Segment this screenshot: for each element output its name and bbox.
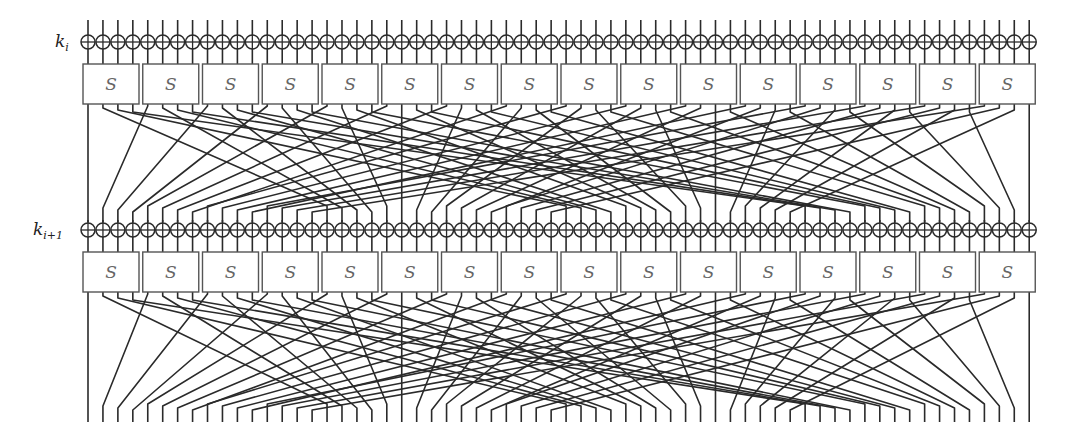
xor-icon	[694, 35, 708, 49]
xor-icon	[1022, 223, 1036, 237]
xor-icon	[484, 223, 498, 237]
sbox: S	[561, 252, 617, 292]
sbox-label: S	[165, 74, 177, 94]
sbox: S	[800, 64, 856, 104]
xor-icon	[559, 35, 573, 49]
xor-icon	[783, 223, 797, 237]
xor-icon	[828, 35, 842, 49]
sbox: S	[621, 252, 677, 292]
xor-icon	[664, 35, 678, 49]
xor-icon	[395, 35, 409, 49]
xor-icon	[96, 223, 110, 237]
xor-icon	[933, 35, 947, 49]
xor-icon	[156, 223, 170, 237]
xor-icon	[365, 223, 379, 237]
sbox: S	[143, 64, 199, 104]
xor-icon	[395, 223, 409, 237]
sbox-label: S	[165, 262, 177, 282]
permutation-wire	[850, 292, 984, 422]
xor-icon	[111, 35, 125, 49]
xor-icon	[514, 223, 528, 237]
sbox-label: S	[284, 262, 296, 282]
sbox: S	[262, 64, 318, 104]
xor-icon	[649, 223, 663, 237]
sbox-label: S	[464, 262, 476, 282]
xor-icon	[141, 35, 155, 49]
xor-icon	[96, 35, 110, 49]
xor-icon	[186, 223, 200, 237]
xor-icon	[275, 223, 289, 237]
sbox: S	[382, 64, 438, 104]
xor-icon	[469, 35, 483, 49]
sbox-label: S	[1001, 262, 1013, 282]
sbox-label: S	[882, 262, 894, 282]
sbox-label: S	[703, 74, 715, 94]
xor-icon	[469, 223, 483, 237]
sbox: S	[979, 252, 1035, 292]
sbox: S	[143, 252, 199, 292]
xor-icon	[230, 223, 244, 237]
xor-icon	[634, 35, 648, 49]
xor-icon	[843, 35, 857, 49]
xor-icon	[619, 35, 633, 49]
xor-icon	[320, 35, 334, 49]
xor-icon	[1007, 35, 1021, 49]
sbox: S	[262, 252, 318, 292]
xor-icon	[977, 223, 991, 237]
xor-icon	[992, 35, 1006, 49]
sbox: S	[83, 64, 139, 104]
sbox: S	[800, 252, 856, 292]
xor-icon	[768, 35, 782, 49]
xor-icon	[992, 223, 1006, 237]
xor-icon	[888, 223, 902, 237]
sbox-label: S	[703, 262, 715, 282]
xor-icon	[813, 35, 827, 49]
sbox-label: S	[225, 74, 237, 94]
xor-icon	[305, 223, 319, 237]
sbox: S	[322, 252, 378, 292]
xor-icon	[245, 35, 259, 49]
sbox: S	[561, 64, 617, 104]
xor-icon	[679, 35, 693, 49]
xor-icon	[529, 35, 543, 49]
xor-icon	[723, 223, 737, 237]
xor-icon	[753, 223, 767, 237]
sbox: S	[860, 252, 916, 292]
sbox-label: S	[583, 262, 595, 282]
xor-icon	[455, 35, 469, 49]
permutation-wire	[969, 292, 1014, 422]
xor-icon	[171, 223, 185, 237]
xor-icon	[215, 223, 229, 237]
xor-icon	[425, 223, 439, 237]
xor-icon	[1007, 223, 1021, 237]
xor-icon	[604, 223, 618, 237]
xor-icon	[126, 35, 140, 49]
xor-icon	[708, 35, 722, 49]
sbox-label: S	[225, 262, 237, 282]
xor-icon	[888, 35, 902, 49]
xor-icon	[335, 223, 349, 237]
xor-icon	[873, 223, 887, 237]
permutation-wire	[103, 104, 148, 222]
xor-icon	[574, 223, 588, 237]
xor-icon	[948, 223, 962, 237]
sbox: S	[740, 252, 796, 292]
xor-icon	[948, 35, 962, 49]
xor-icon	[126, 223, 140, 237]
sbox: S	[621, 64, 677, 104]
xor-icon	[768, 223, 782, 237]
sbox-row: SSSSSSSSSSSSSSSSSSSSSSSSSSSSSSSS	[83, 64, 1035, 292]
sbox-label: S	[882, 74, 894, 94]
xor-icon	[933, 223, 947, 237]
sbox: S	[442, 252, 498, 292]
xor-icon	[619, 223, 633, 237]
sbox: S	[203, 64, 259, 104]
xor-icon	[708, 223, 722, 237]
xor-icon	[290, 223, 304, 237]
xor-icon	[380, 223, 394, 237]
xor-icon	[455, 223, 469, 237]
xor-icon	[230, 35, 244, 49]
xor-icon	[260, 223, 274, 237]
xor-icon	[589, 35, 603, 49]
xor-icon	[843, 223, 857, 237]
